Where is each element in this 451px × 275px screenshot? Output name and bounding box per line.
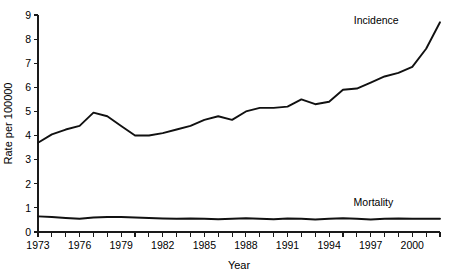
x-axis-tick-label: 1973 <box>26 239 50 251</box>
x-axis-tick-label: 1985 <box>193 239 217 251</box>
y-axis-tick-label: 6 <box>25 81 31 93</box>
x-axis-tick-label: 2000 <box>401 239 425 251</box>
x-axis-tick-label: 1976 <box>68 239 92 251</box>
x-axis: 1973197619791982198519881991199419972000 <box>26 232 440 251</box>
y-axis-tick-label: 0 <box>25 226 31 238</box>
series-label-mortality: Mortality <box>354 196 394 208</box>
x-axis-tick-label: 1994 <box>317 239 341 251</box>
series-label-incidence: Incidence <box>354 14 399 26</box>
x-axis-title: Year <box>228 259 251 271</box>
y-axis-tick-label: 7 <box>25 57 31 69</box>
chart-figure: 0123456789 19731976197919821985198819911… <box>0 0 451 275</box>
x-axis-tick-label: 1979 <box>109 239 133 251</box>
y-axis: 0123456789 <box>25 9 38 238</box>
series-labels-group: IncidenceMortality <box>354 14 399 208</box>
y-axis-tick-label: 9 <box>25 9 31 21</box>
y-axis-tick-label: 5 <box>25 105 31 117</box>
y-axis-tick-label: 8 <box>25 33 31 45</box>
y-axis-tick-label: 3 <box>25 153 31 165</box>
x-axis-tick-label: 1988 <box>234 239 258 251</box>
y-axis-tick-label: 1 <box>25 202 31 214</box>
y-axis-tick-label: 2 <box>25 178 31 190</box>
x-axis-tick-label: 1997 <box>359 239 383 251</box>
series-line-incidence <box>38 22 440 143</box>
x-axis-tick-label: 1982 <box>151 239 175 251</box>
y-axis-tick-label: 4 <box>25 129 31 141</box>
x-axis-tick-label: 1991 <box>276 239 300 251</box>
y-axis-title: Rate per 100000 <box>2 83 14 165</box>
chart-plot-area: 0123456789 19731976197919821985198819911… <box>0 0 451 275</box>
series-line-mortality <box>38 216 440 219</box>
data-series-group <box>38 22 440 219</box>
